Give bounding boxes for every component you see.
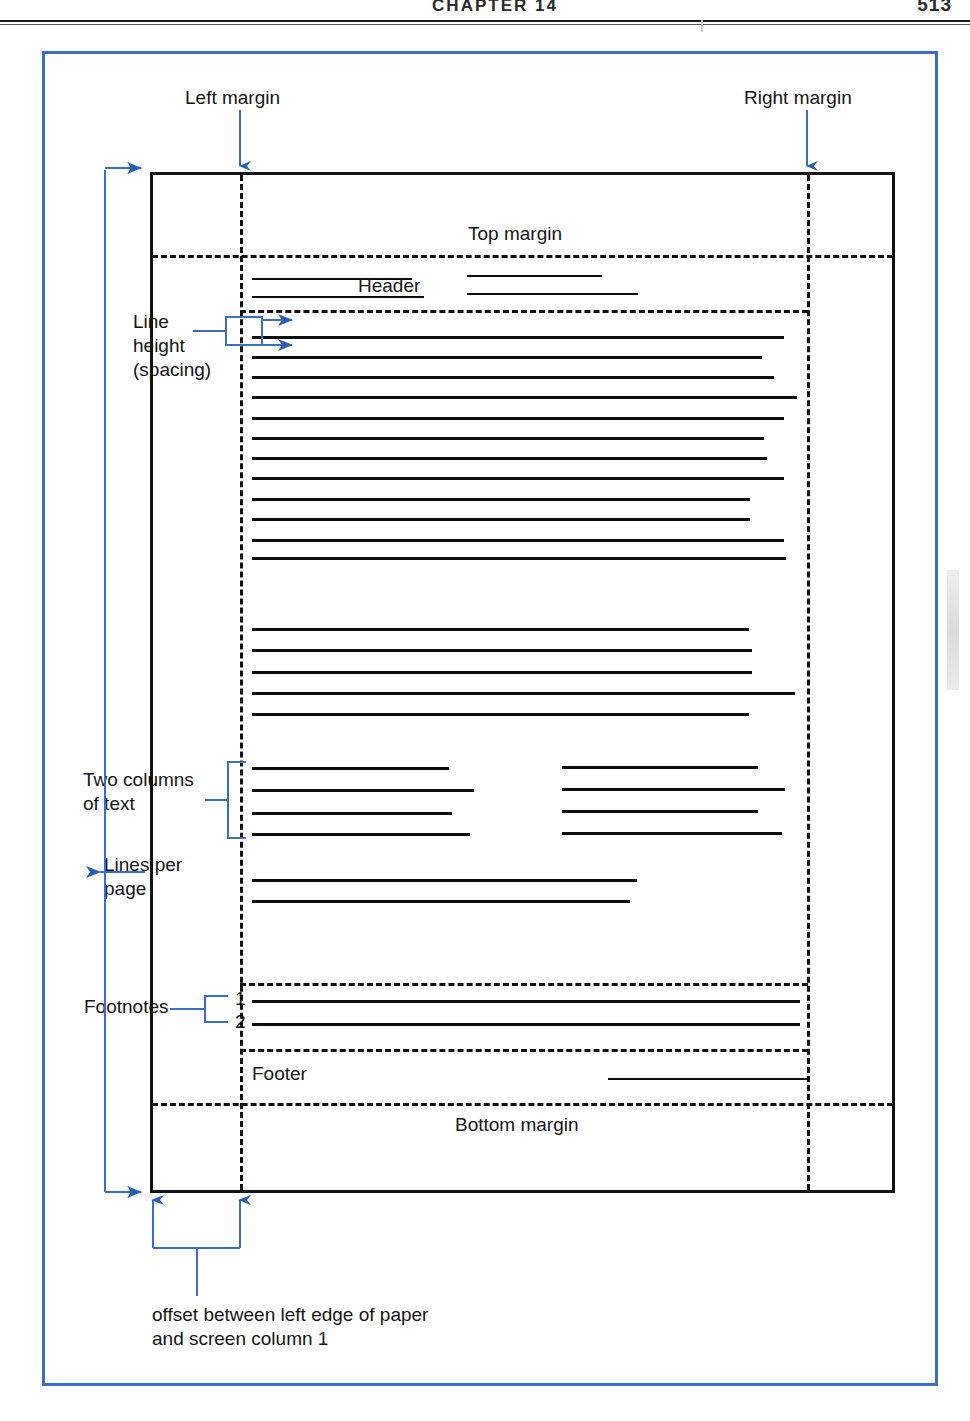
bottom-margin-guide <box>152 1103 893 1106</box>
footer-top-guide <box>240 1049 808 1052</box>
label-footnote-2: 2 <box>235 1010 246 1034</box>
top-margin-guide <box>152 255 893 258</box>
label-footnote-1: 1 <box>235 987 246 1011</box>
page-number: 513 <box>882 0 952 16</box>
header-text-line <box>467 275 602 277</box>
body-text-line <box>252 539 784 542</box>
body-text-line <box>252 376 774 379</box>
header-rule-secondary <box>0 24 970 25</box>
body-text-line <box>252 557 786 560</box>
column-left-text-line <box>252 767 449 770</box>
label-bottom-margin: Bottom margin <box>455 1113 579 1137</box>
body-text-line <box>252 356 762 359</box>
column-left-text-line <box>252 812 452 815</box>
right-margin-guide <box>807 175 810 1190</box>
header-rule <box>0 20 970 22</box>
body-text-line <box>252 900 630 903</box>
left-margin-guide <box>240 175 243 1190</box>
body-text-line <box>252 477 784 480</box>
column-right-text-line <box>562 810 758 813</box>
label-top-margin: Top margin <box>468 222 562 246</box>
label-footer: Footer <box>252 1062 307 1086</box>
column-left-text-line <box>252 789 474 792</box>
column-left-text-line <box>252 833 470 836</box>
footnote-text-line <box>252 1023 800 1026</box>
label-line-height: Line height (spacing) <box>133 310 211 382</box>
paper-box <box>150 172 895 1193</box>
header-text-line <box>467 293 638 295</box>
label-lines-per-page: Lines per page <box>104 853 182 901</box>
label-footnotes: Footnotes <box>84 995 169 1019</box>
column-right-text-line <box>562 788 785 791</box>
label-header: Header <box>358 274 420 298</box>
body-text-line <box>252 498 750 501</box>
column-right-text-line <box>562 832 782 835</box>
body-text-line <box>252 396 797 399</box>
body-text-line <box>252 518 750 521</box>
body-text-line <box>252 336 784 339</box>
body-text-line <box>252 879 637 882</box>
label-offset-caption: offset between left edge of paper and sc… <box>152 1303 428 1351</box>
body-text-line <box>252 457 767 460</box>
label-left-margin: Left margin <box>185 86 280 110</box>
running-head: CHAPTER 14 <box>330 0 660 18</box>
footnote-top-guide <box>240 983 808 986</box>
column-right-text-line <box>562 766 758 769</box>
body-text-line <box>252 692 795 695</box>
label-two-columns: Two columns of text <box>83 768 194 816</box>
body-text-line <box>252 437 764 440</box>
body-text-line <box>252 417 784 420</box>
footer-text-line <box>608 1078 808 1080</box>
body-text-line <box>252 649 752 652</box>
label-right-margin: Right margin <box>744 86 852 110</box>
body-text-line <box>252 628 749 631</box>
scan-artifact <box>701 20 703 32</box>
body-text-line <box>252 671 752 674</box>
scan-margin-artifact <box>947 570 959 690</box>
footnote-text-line <box>252 1000 800 1003</box>
body-text-line <box>252 713 749 716</box>
header-bottom-guide <box>240 310 808 313</box>
